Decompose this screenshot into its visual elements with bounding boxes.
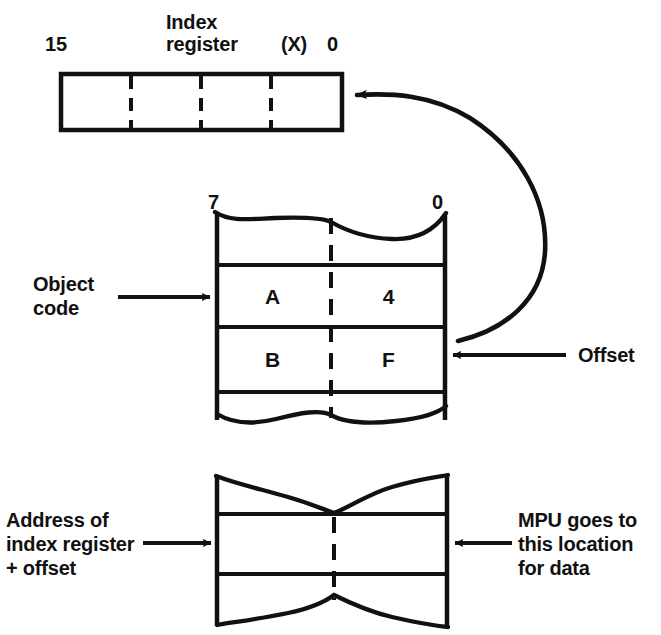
memory-block-top-torn-edge bbox=[216, 475, 448, 513]
offset-to-index-register-arrow bbox=[357, 94, 545, 341]
index-register-box bbox=[61, 74, 342, 130]
memory-block bbox=[216, 475, 448, 627]
diagram-lineart bbox=[0, 0, 661, 635]
object-code-block bbox=[215, 212, 446, 423]
diagram-canvas: 15 Index register (X) 0 7 0 Object code … bbox=[0, 0, 661, 635]
